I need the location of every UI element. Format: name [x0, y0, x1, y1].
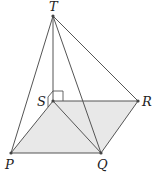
point-q: [99, 151, 102, 154]
edge-tr: [53, 16, 138, 101]
point-s: [51, 99, 54, 102]
label-r: R: [141, 94, 152, 109]
label-q: Q: [97, 157, 108, 172]
label-t: T: [49, 0, 59, 14]
pyramid-diagram: T S R P Q: [0, 0, 159, 174]
point-t: [51, 14, 54, 17]
label-p: P: [4, 157, 14, 172]
point-p: [9, 151, 12, 154]
label-s: S: [37, 94, 46, 109]
point-r: [136, 99, 139, 102]
right-angle-marker-sr: [53, 91, 63, 101]
